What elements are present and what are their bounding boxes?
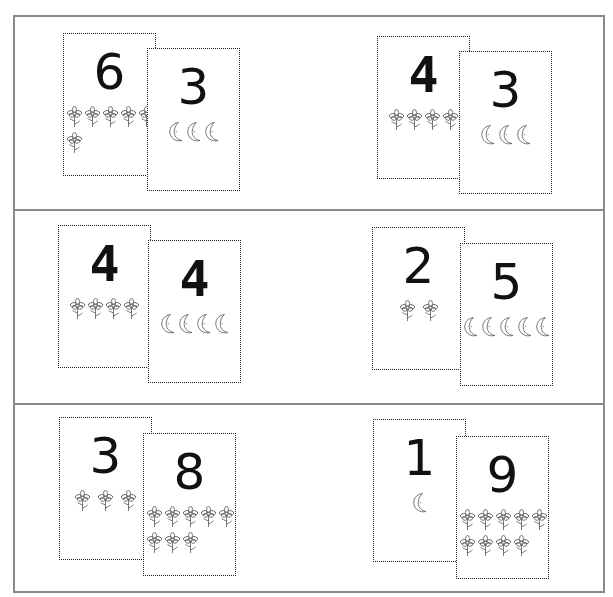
picture-row [388, 109, 459, 131]
moon-icon [480, 316, 497, 338]
flower-icon [66, 106, 83, 128]
flower-icon [146, 532, 163, 554]
moon-icon [411, 492, 428, 514]
flower-icon [182, 532, 199, 554]
moon-icon [159, 313, 176, 335]
flower-icon [84, 106, 101, 128]
picture-row [146, 532, 199, 554]
flower-icon [87, 298, 104, 320]
picture-row [459, 509, 548, 531]
flower-icon [120, 106, 137, 128]
number-card-4: 4 [377, 36, 470, 179]
moon-icon [479, 124, 496, 146]
flower-icon [97, 490, 114, 512]
card-counting-pictures [380, 109, 467, 131]
flower-icon [74, 490, 91, 512]
card-numeral: 6 [64, 42, 155, 102]
number-card-5: 5 [460, 243, 553, 386]
flower-icon [399, 300, 416, 322]
flower-icon [120, 490, 137, 512]
row-divider [13, 209, 603, 211]
picture-row [399, 300, 439, 322]
flower-icon [146, 506, 163, 528]
moon-icon [516, 316, 533, 338]
picture-row [66, 132, 83, 154]
card-numeral: 8 [144, 442, 235, 502]
picture-row [159, 313, 230, 335]
moon-icon [167, 121, 184, 143]
row-divider [13, 403, 603, 405]
card-numeral: 4 [149, 249, 240, 309]
moon-icon [177, 313, 194, 335]
number-card-4: 4 [148, 240, 241, 383]
card-numeral: 1 [374, 428, 465, 488]
card-counting-pictures [375, 300, 462, 322]
flower-icon [495, 509, 512, 531]
card-numeral: 3 [148, 57, 239, 117]
flower-icon [123, 298, 140, 320]
picture-row [69, 298, 140, 320]
picture-row [167, 121, 220, 143]
moon-icon [498, 316, 515, 338]
card-numeral: 3 [60, 426, 151, 486]
card-counting-pictures [151, 313, 238, 335]
flower-icon [200, 506, 217, 528]
flower-icon [182, 506, 199, 528]
flower-icon [218, 506, 235, 528]
moon-icon [462, 316, 479, 338]
number-card-3: 3 [59, 417, 152, 560]
picture-row [462, 316, 551, 338]
picture-row [479, 124, 532, 146]
card-numeral: 4 [59, 234, 150, 294]
number-card-3: 3 [459, 51, 552, 194]
moon-icon [213, 313, 230, 335]
card-counting-pictures [463, 316, 550, 338]
flower-icon [164, 506, 181, 528]
flower-icon [69, 298, 86, 320]
flower-icon [105, 298, 122, 320]
flower-icon [422, 300, 439, 322]
flower-icon [459, 509, 476, 531]
flower-icon [424, 109, 441, 131]
picture-row [74, 490, 137, 512]
card-counting-pictures [146, 506, 233, 554]
number-card-3: 3 [147, 48, 240, 191]
moon-icon [195, 313, 212, 335]
card-numeral: 2 [373, 236, 464, 296]
picture-row [411, 492, 428, 514]
flower-icon [102, 106, 119, 128]
number-card-4: 4 [58, 225, 151, 368]
number-card-1: 1 [373, 419, 466, 562]
flower-icon [513, 535, 530, 557]
flower-icon [164, 532, 181, 554]
flower-icon [513, 509, 530, 531]
flower-icon [388, 109, 405, 131]
moon-icon [515, 124, 532, 146]
flower-icon [477, 535, 494, 557]
moon-icon [534, 316, 551, 338]
flower-icon [442, 109, 459, 131]
picture-row [146, 506, 235, 528]
card-counting-pictures [150, 121, 237, 143]
moon-icon [185, 121, 202, 143]
number-card-6: 6 [63, 33, 156, 176]
card-numeral: 9 [457, 445, 548, 505]
card-counting-pictures [376, 492, 463, 514]
card-numeral: 5 [461, 252, 552, 312]
card-counting-pictures [61, 298, 148, 320]
number-card-2: 2 [372, 227, 465, 370]
flower-icon [477, 509, 494, 531]
picture-row [66, 106, 155, 128]
card-counting-pictures [62, 490, 149, 512]
number-card-8: 8 [143, 433, 236, 576]
flower-icon [406, 109, 423, 131]
card-numeral: 3 [460, 60, 551, 120]
flower-icon [66, 132, 83, 154]
card-counting-pictures [459, 509, 546, 557]
card-counting-pictures [66, 106, 153, 154]
number-card-9: 9 [456, 436, 549, 579]
card-counting-pictures [462, 124, 549, 146]
flower-icon [531, 509, 548, 531]
card-numeral: 4 [378, 45, 469, 105]
moon-icon [497, 124, 514, 146]
